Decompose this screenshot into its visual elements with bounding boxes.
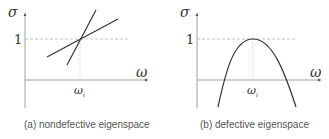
diagram-canvas: σ 1 ω ωi (a) nondefective eigenspace σ 1… [0, 0, 329, 139]
panel-b: σ 1 ω ωi (b) defective eigenspace [180, 4, 322, 130]
caption-b: (b) defective eigenspace [200, 119, 309, 130]
shallow-line [47, 19, 118, 57]
caption-a: (a) nondefective eigenspace [24, 119, 150, 130]
y-axis-label: σ [180, 4, 190, 20]
x-axis-label: ω [310, 64, 322, 80]
x-axis-label: ω [136, 64, 148, 80]
steep-line [67, 10, 96, 65]
y-tick-label: 1 [186, 32, 194, 47]
x-tick-label: ωi [74, 84, 85, 98]
y-tick-label: 1 [14, 32, 22, 47]
y-axis-label: σ [8, 4, 18, 20]
panel-a: σ 1 ω ωi (a) nondefective eigenspace [8, 4, 150, 130]
x-tick-label: ωi [247, 84, 258, 98]
